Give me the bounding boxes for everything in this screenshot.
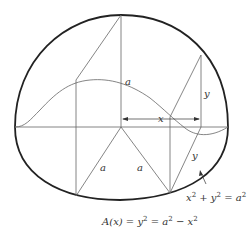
right-top-diagonal xyxy=(170,55,201,117)
circle-equation: x2 + y2 = a2 xyxy=(186,191,246,203)
equation-pointer-head xyxy=(199,170,203,176)
x-arrow-left-head xyxy=(122,117,128,121)
label-a-right-slant: a xyxy=(137,162,143,173)
area-formula: A(x) = y2 = a2 − x2 xyxy=(101,215,198,227)
left-top-diagonal xyxy=(76,15,121,80)
solid-top-curve xyxy=(15,80,228,135)
x-arrow-right-head xyxy=(194,117,200,121)
label-y-right-upper: y xyxy=(203,88,210,99)
label-a-vertical: a xyxy=(125,76,131,87)
label-a-left-slant: a xyxy=(100,162,106,173)
base-right-radius xyxy=(121,127,170,193)
square-cross-section-diagram: a y x a a y x2 + y2 = a2 A(x) = y2 = a2 … xyxy=(0,0,248,230)
label-x-arrow: x xyxy=(158,113,164,124)
base-left-radius xyxy=(76,127,121,196)
solid-outline xyxy=(15,15,228,200)
label-y-right-lower: y xyxy=(191,150,198,161)
